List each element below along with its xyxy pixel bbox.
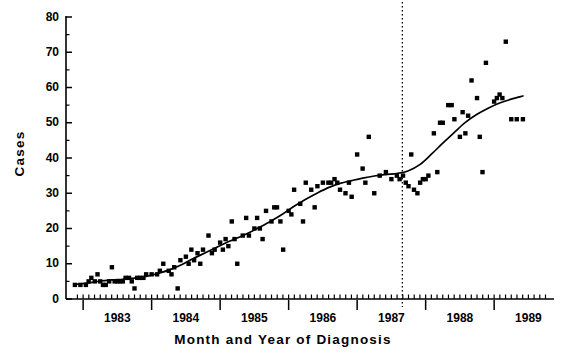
svg-text:1987: 1987	[378, 311, 405, 325]
scatter-data-points	[73, 39, 525, 290]
svg-text:80: 80	[46, 10, 60, 24]
svg-text:1985: 1985	[241, 311, 268, 325]
svg-text:1988: 1988	[447, 311, 474, 325]
svg-text:10: 10	[46, 256, 60, 270]
svg-text:30: 30	[46, 186, 60, 200]
chart-figure: 01020304050607080 1983198419851986198719…	[0, 0, 566, 356]
x-axis-major-ticks	[83, 300, 494, 310]
svg-text:1989: 1989	[515, 311, 542, 325]
x-axis-title: Month and Year of Diagnosis	[0, 332, 566, 347]
y-axis-tick-labels: 01020304050607080	[46, 10, 60, 306]
svg-text:20: 20	[46, 221, 60, 235]
svg-text:1984: 1984	[173, 311, 200, 325]
svg-text:70: 70	[46, 45, 60, 59]
svg-text:60: 60	[46, 80, 60, 94]
x-axis-tick-labels: 1983198419851986198719881989	[104, 311, 542, 325]
y-axis-title: Cases	[12, 119, 27, 189]
scatter-plot-canvas: 01020304050607080 1983198419851986198719…	[0, 0, 566, 356]
svg-text:50: 50	[46, 115, 60, 129]
smoothed-trend-line	[78, 96, 523, 284]
svg-text:1983: 1983	[104, 311, 131, 325]
svg-text:40: 40	[46, 151, 60, 165]
y-axis-major-ticks	[66, 17, 72, 299]
svg-text:0: 0	[52, 292, 59, 306]
svg-text:1986: 1986	[310, 311, 337, 325]
